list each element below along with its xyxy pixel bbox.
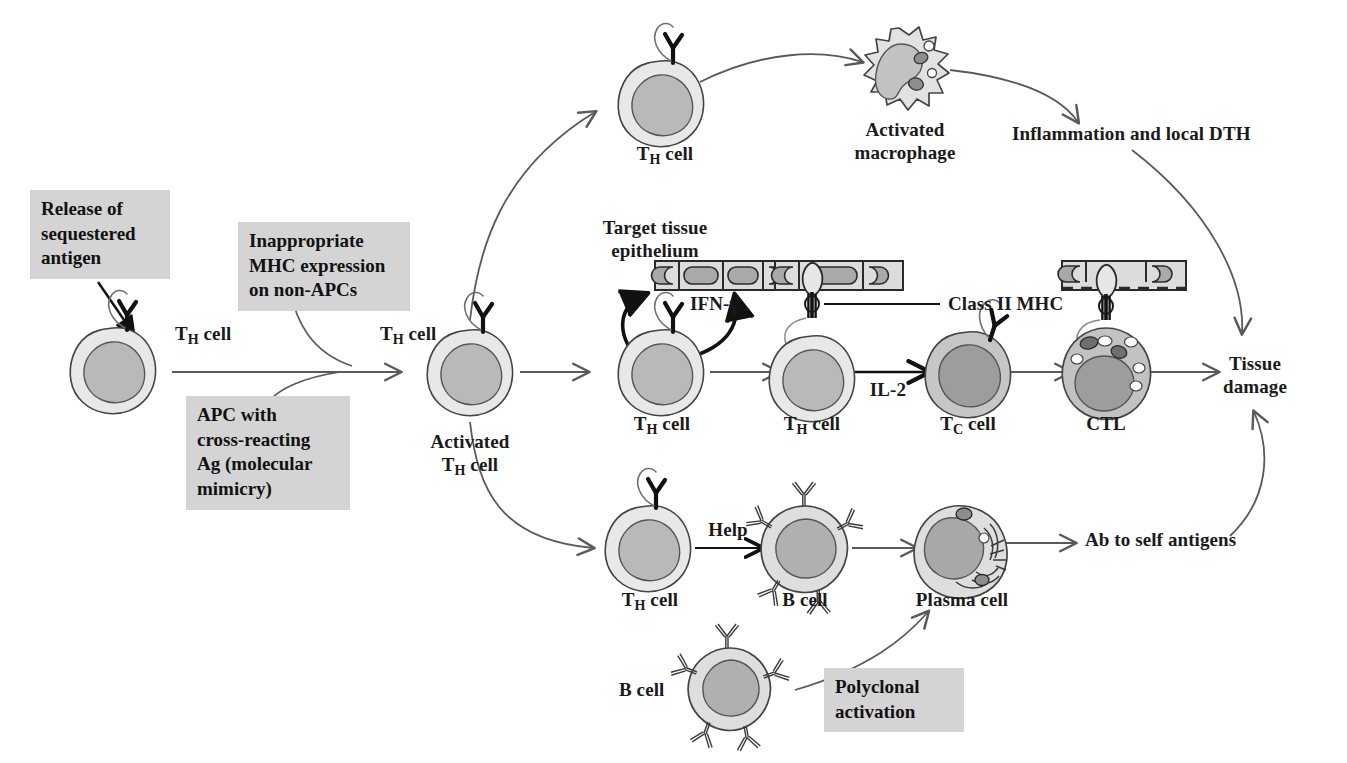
cell-th-mhc	[769, 336, 854, 422]
autoimmunity-pathway-diagram: Release of sequestered antigen Inappropr…	[0, 0, 1347, 763]
callout-inappropriate-mhc: Inappropriate MHC expression on non-APCs	[238, 222, 410, 311]
callout-release-sequestered-antigen: Release of sequestered antigen	[30, 190, 170, 279]
label-target-tissue-epithelium: Target tissue epithelium	[603, 216, 708, 262]
label-inflammation-dth: Inflammation and local DTH	[1012, 122, 1251, 145]
arrow-inflammation-to-damage	[1132, 150, 1242, 333]
cell-b-polyclonal	[670, 624, 790, 751]
label-b-cell-helped: B cell	[782, 588, 827, 611]
label-b-cell-polyclonal: B cell	[619, 678, 664, 701]
cell-th-dth	[618, 23, 703, 146]
label-th-cell-ifn: TH cell	[634, 412, 690, 438]
label-th-cell-mhc: TH cell	[784, 412, 840, 438]
label-ifn-gamma: IFN-γ	[690, 292, 738, 315]
label-il-2: IL-2	[870, 378, 906, 401]
label-th-cell-mid: TH cell	[380, 322, 436, 348]
label-th-cell-start: TH cell	[175, 322, 231, 348]
cell-th-help	[605, 468, 690, 591]
label-ctl: CTL	[1086, 412, 1125, 435]
label-tc-cell: TC cell	[940, 412, 996, 438]
cell-activated-macrophage	[864, 27, 949, 110]
class-ii-mhc-molecule	[803, 263, 823, 318]
label-th-cell-dth: TH cell	[637, 142, 693, 168]
cell-ctl	[1062, 328, 1150, 419]
diagram-artwork	[0, 0, 1347, 763]
label-class-ii-mhc: Class II MHC	[948, 292, 1063, 315]
arrow-branch-up-to-th	[470, 112, 595, 320]
ctl-mhc-contact	[1097, 265, 1117, 320]
cell-th-start	[70, 290, 155, 413]
label-plasma-cell: Plasma cell	[916, 588, 1008, 611]
label-activated-macrophage: Activatedmacrophage	[855, 118, 956, 164]
label-activated-th-cell: ActivatedTH cell	[431, 430, 510, 479]
label-help: Help	[708, 518, 747, 541]
epithelium-strip-mhc	[772, 261, 904, 290]
arrow-th-to-macrophage	[700, 54, 862, 82]
arrow-macrophage-to-inflammation	[950, 70, 1078, 122]
label-th-cell-help: TH cell	[622, 588, 678, 614]
epithelium-strip-lysed	[1058, 261, 1186, 290]
cell-activated-th	[427, 292, 512, 415]
leader-apc-cross-reacting	[272, 372, 340, 398]
arrow-ab-to-damage	[1230, 412, 1264, 536]
cell-plasma	[914, 506, 1007, 599]
epithelium-strip-ifn	[652, 261, 789, 290]
label-ab-to-self-antigens: Ab to self antigens	[1085, 528, 1236, 551]
callout-apc-cross-reacting: APC with cross-reacting Ag (molecular mi…	[186, 396, 350, 510]
label-tissue-damage: Tissue damage	[1223, 352, 1287, 398]
callout-polyclonal-activation: Polyclonal activation	[824, 668, 964, 732]
